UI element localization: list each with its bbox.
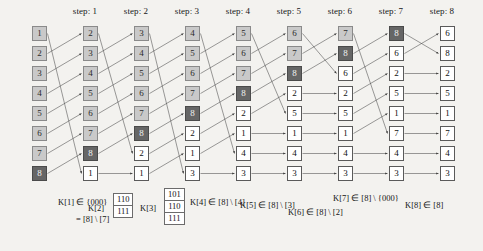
step-header-3: step: 3 [175, 6, 199, 16]
grid-cell-c3-r7: 3 [185, 166, 200, 181]
edge [48, 54, 82, 74]
grid-cell-c7-r3: 5 [389, 86, 404, 101]
grid-cell-c2-r5: 8 [134, 126, 149, 141]
edge [303, 54, 337, 74]
edge [150, 94, 184, 114]
grid-cell-c5-r3: 2 [287, 86, 302, 101]
grid-cell-c0-r6: 7 [32, 146, 47, 161]
grid-cell-c4-r2: 7 [236, 66, 251, 81]
edge [48, 114, 82, 134]
annotation-k6: K[6] ∈ [8] \ [2] [288, 207, 343, 217]
edge [99, 74, 133, 94]
edge [201, 134, 235, 154]
edge [354, 34, 388, 54]
grid-cell-c6-r3: 2 [338, 86, 353, 101]
edge [201, 54, 235, 74]
grid-cell-c7-r0: 8 [389, 26, 404, 41]
grid-cell-c4-r1: 6 [236, 46, 251, 61]
edge [99, 134, 133, 154]
grid-cell-c1-r6: 8 [83, 146, 98, 161]
grid-cell-c2-r2: 5 [134, 66, 149, 81]
grid-cell-c1-r4: 6 [83, 106, 98, 121]
grid-cell-c8-r3: 5 [440, 86, 455, 101]
grid-cell-c7-r1: 6 [389, 46, 404, 61]
grid-cell-c5-r4: 5 [287, 106, 302, 121]
grid-cell-c7-r2: 2 [389, 66, 404, 81]
grid-cell-c5-r2: 8 [287, 66, 302, 81]
grid-cell-c1-r0: 2 [83, 26, 98, 41]
grid-cell-c1-r7: 1 [83, 166, 98, 181]
edge [252, 34, 286, 54]
grid-cell-c0-r5: 6 [32, 126, 47, 141]
bit-value: 111 [164, 212, 185, 225]
grid-cell-c5-r6: 4 [287, 146, 302, 161]
edge [99, 34, 133, 54]
annotation-k1-line2: = [8] \ [7] [76, 214, 109, 224]
edge [150, 74, 184, 94]
annotation-k2-name: K[2] [88, 203, 104, 213]
grid-cell-c4-r5: 1 [236, 126, 251, 141]
edge [405, 34, 439, 54]
edge [354, 94, 388, 114]
grid-cell-c1-r5: 7 [83, 126, 98, 141]
step-header-8: step: 8 [430, 6, 454, 16]
edge [48, 34, 82, 54]
grid-cell-c2-r4: 7 [134, 106, 149, 121]
edge [201, 114, 235, 134]
grid-cell-c8-r4: 1 [440, 106, 455, 121]
annotation-k3-bits: 101 110 111 [164, 188, 185, 224]
edge [201, 94, 235, 114]
grid-cell-c1-r3: 5 [83, 86, 98, 101]
edge [99, 114, 133, 134]
annotation-k2-bits: 110 111 [113, 193, 133, 217]
step-header-7: step: 7 [379, 6, 403, 16]
edge [354, 54, 388, 74]
grid-cell-c0-r1: 2 [32, 46, 47, 61]
step-header-6: step: 6 [328, 6, 352, 16]
edge [48, 74, 82, 94]
grid-cell-c2-r0: 3 [134, 26, 149, 41]
grid-cell-c3-r2: 6 [185, 66, 200, 81]
edge [303, 34, 337, 74]
edge [303, 34, 337, 54]
grid-cell-c6-r4: 5 [338, 106, 353, 121]
grid-cell-c7-r5: 7 [389, 126, 404, 141]
edge [48, 94, 82, 114]
diagram-canvas: step: 1step: 2step: 3step: 4step: 5step:… [0, 0, 483, 251]
grid-cell-c4-r3: 8 [236, 86, 251, 101]
grid-cell-c5-r5: 1 [287, 126, 302, 141]
edge [354, 34, 388, 134]
grid-cell-c0-r2: 3 [32, 66, 47, 81]
grid-cell-c8-r6: 4 [440, 146, 455, 161]
grid-cell-c3-r3: 7 [185, 86, 200, 101]
edge [201, 34, 235, 154]
grid-cell-c0-r0: 1 [32, 26, 47, 41]
grid-cell-c3-r4: 8 [185, 106, 200, 121]
step-header-2: step: 2 [124, 6, 148, 16]
bit-value: 111 [113, 205, 133, 218]
grid-cell-c3-r6: 1 [185, 146, 200, 161]
annotation-k4: K[4] ∈ [8] \ [4] [190, 197, 245, 207]
edge [150, 114, 184, 134]
grid-cell-c5-r1: 7 [287, 46, 302, 61]
edge [48, 154, 82, 174]
annotation-k5: K[5] ∈ [8] \ [3] [240, 200, 295, 210]
edge [150, 34, 184, 174]
grid-cell-c6-r1: 8 [338, 46, 353, 61]
grid-cell-c8-r5: 7 [440, 126, 455, 141]
grid-cell-c2-r1: 4 [134, 46, 149, 61]
grid-cell-c4-r0: 5 [236, 26, 251, 41]
edge [201, 34, 235, 54]
grid-cell-c3-r0: 4 [185, 26, 200, 41]
grid-cell-c6-r0: 7 [338, 26, 353, 41]
grid-cell-c8-r7: 3 [440, 166, 455, 181]
step-header-4: step: 4 [226, 6, 250, 16]
edge [150, 34, 184, 54]
grid-cell-c5-r0: 6 [287, 26, 302, 41]
step-header-5: step: 5 [277, 6, 301, 16]
grid-cell-c7-r6: 4 [389, 146, 404, 161]
edge [99, 54, 133, 74]
grid-cell-c8-r1: 8 [440, 46, 455, 61]
grid-cell-c7-r4: 1 [389, 106, 404, 121]
edge [48, 134, 82, 154]
